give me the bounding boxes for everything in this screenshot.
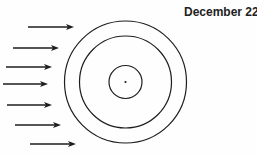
arrow-icon xyxy=(7,102,52,108)
diagram-canvas: December 22 xyxy=(0,0,257,154)
arrow-icon xyxy=(28,24,74,30)
arrow-icon xyxy=(15,122,61,128)
arrow-icon xyxy=(6,64,52,70)
concentric-circles-diagram xyxy=(0,0,257,154)
rings-group xyxy=(65,21,187,143)
arrow-icon xyxy=(13,45,59,51)
arrow-icon xyxy=(30,141,76,147)
center-dot xyxy=(124,81,126,83)
arrow-icon xyxy=(3,81,48,87)
